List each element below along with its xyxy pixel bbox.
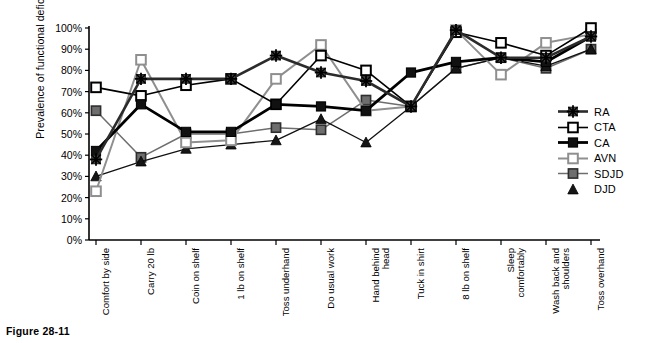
series-ca (91, 32, 595, 156)
legend-symbol (568, 153, 578, 163)
data-point-cta-9 (496, 38, 506, 48)
legend-symbol (568, 138, 577, 147)
legend-symbol (568, 169, 577, 178)
data-point-avn-2 (181, 138, 191, 148)
data-point-avn-5 (316, 40, 326, 50)
data-point-cta-5 (316, 51, 326, 61)
legend-label: CA (594, 137, 610, 149)
data-point-sdjd-0 (91, 106, 100, 115)
legend-label: RA (594, 106, 610, 118)
legend-marker-sdjd-icon (556, 166, 590, 181)
data-point-ra-10 (540, 51, 552, 63)
figure-panel: Prevalence of functional deficit 0%10%20… (0, 0, 647, 343)
data-point-ca-4 (271, 100, 280, 109)
legend-marker-ra-icon (556, 104, 590, 119)
data-point-ra-7 (405, 100, 417, 112)
data-point-ra-4 (270, 49, 282, 61)
legend-item-sdjd: SDJD (556, 166, 624, 182)
data-point-ra-1 (135, 73, 147, 85)
data-point-sdjd-5 (316, 125, 325, 134)
data-point-avn-10 (541, 38, 551, 48)
data-point-avn-0 (91, 186, 101, 196)
data-point-ca-5 (316, 102, 325, 111)
data-point-ra-3 (225, 73, 237, 85)
data-point-ca-3 (226, 127, 235, 136)
legend-item-ca: CA (556, 135, 624, 151)
data-point-ca-7 (406, 68, 415, 77)
data-point-cta-0 (91, 83, 101, 93)
data-point-cta-6 (361, 66, 371, 76)
legend-item-djd: DJD (556, 182, 624, 198)
legend-label: DJD (594, 183, 616, 195)
data-point-djd-6 (361, 137, 371, 147)
line-chart-plot (0, 0, 647, 343)
legend-label: CTA (594, 121, 616, 133)
legend-label: SDJD (594, 168, 624, 180)
data-point-ra-11 (585, 30, 597, 42)
data-point-cta-1 (136, 91, 146, 101)
data-point-djd-4 (271, 135, 281, 145)
data-point-avn-1 (136, 55, 146, 65)
data-point-ra-5 (315, 66, 327, 78)
data-point-ca-1 (136, 100, 145, 109)
legend-symbol (568, 122, 578, 132)
data-point-sdjd-6 (361, 95, 370, 104)
data-point-ra-9 (495, 51, 507, 63)
series-djd (91, 44, 596, 181)
legend-item-avn: AVN (556, 151, 624, 167)
legend-item-cta: CTA (556, 120, 624, 136)
data-point-ca-2 (181, 127, 190, 136)
legend-symbol (568, 184, 578, 194)
data-point-sdjd-4 (271, 123, 280, 132)
data-point-ra-0 (90, 153, 102, 165)
legend-marker-ca-icon (556, 135, 590, 150)
legend-label: AVN (594, 152, 616, 164)
legend-item-ra: RA (556, 104, 624, 120)
data-point-ra-6 (360, 75, 372, 87)
data-point-avn-9 (496, 70, 506, 80)
data-point-avn-3 (226, 136, 236, 146)
figure-caption: Figure 28-11 (6, 325, 70, 337)
legend-marker-avn-icon (556, 151, 590, 166)
chart-legend: RACTACAAVNSDJDDJD (556, 104, 624, 197)
data-point-ra-8 (450, 24, 462, 36)
legend-marker-djd-icon (556, 182, 590, 197)
legend-marker-cta-icon (556, 120, 590, 135)
data-point-ca-8 (451, 57, 460, 66)
data-point-ca-6 (361, 106, 370, 115)
legend-symbol (567, 106, 579, 118)
series-avn (91, 25, 596, 196)
data-point-avn-4 (271, 74, 281, 84)
data-point-ra-2 (180, 73, 192, 85)
series-cta (91, 23, 596, 111)
data-point-djd-5 (316, 114, 326, 124)
